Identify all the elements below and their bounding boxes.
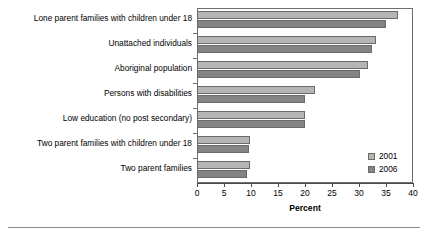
category-label: Two parent families with children under … xyxy=(0,138,192,149)
bar-2001 xyxy=(197,36,376,44)
legend-item: 2006 xyxy=(368,163,397,175)
bar-2006 xyxy=(197,45,372,53)
bar-2001 xyxy=(197,161,250,169)
y-axis-tick xyxy=(193,108,197,109)
x-axis-tick-label: 35 xyxy=(374,188,398,199)
bar-2001 xyxy=(197,111,305,119)
bar-2006 xyxy=(197,120,305,128)
category-label: Persons with disabilities xyxy=(0,88,192,99)
bar-2001 xyxy=(197,11,398,19)
bar-2006 xyxy=(197,20,386,28)
bar-2006 xyxy=(197,95,305,103)
x-axis-tick xyxy=(197,183,198,187)
bar-group xyxy=(197,8,413,33)
legend-item: 2001 xyxy=(368,150,397,162)
x-axis-tick xyxy=(359,183,360,187)
bottom-divider xyxy=(8,227,420,228)
x-axis-tick-label: 25 xyxy=(320,188,344,199)
x-axis-tick xyxy=(332,183,333,187)
bar-2001 xyxy=(197,136,250,144)
x-axis-tick-label: 0 xyxy=(185,188,209,199)
bar-2001 xyxy=(197,86,315,94)
legend-swatch-icon xyxy=(368,166,375,173)
legend-label: 2006 xyxy=(379,163,397,175)
x-axis-tick-label: 30 xyxy=(347,188,371,199)
category-label: Low education (no post secondary) xyxy=(0,113,192,124)
category-label: Unattached individuals xyxy=(0,38,192,49)
y-axis-tick xyxy=(193,58,197,59)
bar-2006 xyxy=(197,70,360,78)
y-axis-tick xyxy=(193,33,197,34)
category-label: Two parent families xyxy=(0,163,192,174)
legend-label: 2001 xyxy=(379,150,397,162)
category-label: Lone parent families with children under… xyxy=(0,13,192,24)
category-label: Aboriginal population xyxy=(0,63,192,74)
x-axis-tick xyxy=(251,183,252,187)
y-axis-tick xyxy=(193,133,197,134)
y-axis-tick xyxy=(193,158,197,159)
legend-swatch-icon xyxy=(368,153,375,160)
bar-2006 xyxy=(197,145,249,153)
bar-chart-figure: Lone parent families with children under… xyxy=(0,0,428,233)
x-axis-tick-label: 10 xyxy=(239,188,263,199)
x-axis-tick xyxy=(386,183,387,187)
x-axis-tick xyxy=(278,183,279,187)
x-axis-tick-label: 20 xyxy=(293,188,317,199)
x-axis-tick xyxy=(413,183,414,187)
chart-legend: 20012006 xyxy=(368,150,397,176)
x-axis-tick xyxy=(224,183,225,187)
y-axis-tick xyxy=(193,83,197,84)
bar-group xyxy=(197,33,413,58)
bar-group xyxy=(197,83,413,108)
bar-2001 xyxy=(197,61,368,69)
x-axis-tick-label: 5 xyxy=(212,188,236,199)
x-axis-tick xyxy=(305,183,306,187)
bar-2006 xyxy=(197,170,247,178)
x-axis-tick-label: 15 xyxy=(266,188,290,199)
x-axis-title: Percent xyxy=(197,203,413,213)
bar-group xyxy=(197,58,413,83)
x-axis-tick-label: 40 xyxy=(401,188,425,199)
bar-group xyxy=(197,108,413,133)
